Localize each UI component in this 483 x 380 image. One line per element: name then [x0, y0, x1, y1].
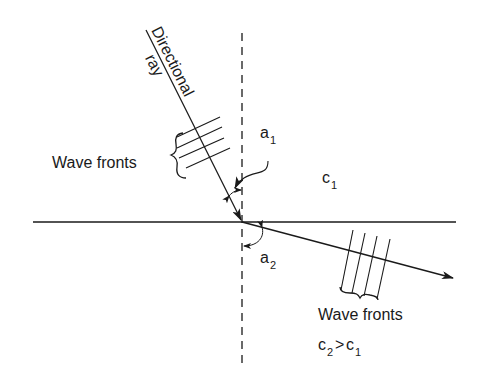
directional-ray-label: Directional ray: [132, 24, 197, 107]
svg-text:c: c: [318, 336, 326, 353]
medium2-speed-relation-label: c 2 > c 1: [318, 336, 361, 358]
angle2-arc: [244, 227, 263, 246]
lower-brace: [340, 287, 378, 300]
upper-wave-fronts: [177, 117, 230, 168]
svg-text:a: a: [260, 124, 269, 141]
diagram-canvas: Directional ray Wave fronts Wave fronts …: [0, 0, 483, 380]
svg-text:c: c: [346, 336, 354, 353]
angle1-arc: [229, 190, 241, 196]
svg-text:2: 2: [327, 346, 333, 358]
medium1-speed-label: c 1: [322, 169, 337, 191]
angle2-label: a 2: [260, 249, 276, 271]
svg-text:c: c: [322, 169, 330, 186]
angle1-label: a 1: [260, 124, 276, 146]
svg-text:1: 1: [355, 346, 361, 358]
svg-text:1: 1: [331, 179, 337, 191]
angle1-pointer-arrow: [235, 161, 268, 188]
wave-fronts-lower-label: Wave fronts: [318, 306, 403, 323]
wave-fronts-upper-label: Wave fronts: [52, 154, 137, 171]
lower-wave-fronts: [341, 230, 390, 299]
svg-text:a: a: [260, 249, 269, 266]
svg-text:2: 2: [270, 259, 276, 271]
svg-text:1: 1: [270, 134, 276, 146]
refraction-diagram: Directional ray Wave fronts Wave fronts …: [0, 0, 483, 380]
svg-text:>: >: [335, 336, 344, 353]
